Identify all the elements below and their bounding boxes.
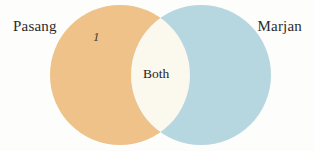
region-label-intersection: Both <box>143 67 169 81</box>
set-label-left: Pasang <box>13 19 57 34</box>
region-label-left-only: 1 <box>93 30 100 43</box>
venn-diagram: Pasang Marjan 1 Both <box>0 0 314 151</box>
set-label-right: Marjan <box>257 19 302 34</box>
